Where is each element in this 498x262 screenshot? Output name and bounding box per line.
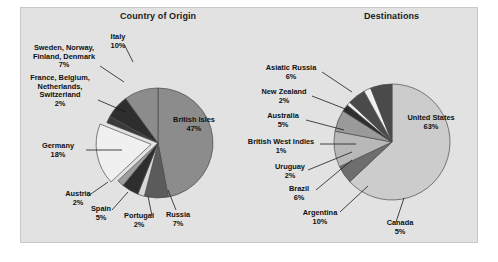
slice-label-argentina: Argentina 10% (295, 209, 345, 226)
pie-slice (158, 88, 213, 197)
slice-label-germany: Germany 18% (32, 142, 84, 159)
slice-label-russia: Russia 7% (159, 211, 197, 228)
leader-line (322, 72, 352, 92)
slice-label-portugal: Portugal 2% (117, 212, 161, 229)
slice-label-lowlands: France, Belgium, Netherlands, Switzerlan… (18, 74, 102, 108)
slice-label-australia: Australia 5% (258, 112, 308, 129)
leader-line (312, 96, 348, 110)
slice-label-british-isles: British Isles 47% (165, 116, 223, 133)
slice-label-brazil: Brazil 6% (279, 185, 319, 202)
slice-label-new-zealand: New Zealand 2% (253, 88, 315, 105)
slice-label-united-states: United States 63% (400, 114, 462, 131)
slice-label-canada: Canada 5% (380, 219, 420, 236)
slice-label-spain: Spain 5% (83, 205, 119, 222)
slice-label-british-west-indies: British West Indies 1% (239, 138, 323, 155)
slice-label-uruguay: Uruguay 2% (266, 163, 314, 180)
chart-figure: Country of Origin Destinations Italy 10%… (0, 0, 498, 262)
slice-label-nordics: Sweden, Norway, Finland, Denmark 7% (22, 44, 106, 70)
slice-label-asiatic-russia: Asiatic Russia 6% (257, 64, 325, 81)
